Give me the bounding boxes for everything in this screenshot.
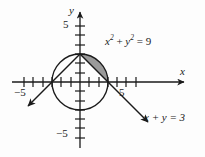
- x-tick-label-neg5: −5: [14, 87, 26, 98]
- circle-eq-equals-nine: = 9: [134, 35, 151, 47]
- plot-canvas: [0, 0, 205, 157]
- circle-eq-plus: +: [114, 35, 126, 47]
- circle-equation-label: x2 + y2 = 9: [105, 36, 151, 47]
- line-arrow-upper: [28, 54, 80, 106]
- y-tick-label-neg5: −5: [56, 128, 68, 139]
- line-curve: [80, 54, 148, 122]
- y-axis-label: y: [69, 5, 74, 16]
- math-figure: y x 5 −5 5 −5 x2 + y2 = 9 x + y = 3: [0, 0, 205, 157]
- x-tick-label-5: 5: [119, 87, 125, 98]
- line-equation-label: x + y = 3: [144, 112, 185, 123]
- x-axis-label: x: [180, 66, 185, 77]
- y-tick-label-5: 5: [63, 19, 69, 30]
